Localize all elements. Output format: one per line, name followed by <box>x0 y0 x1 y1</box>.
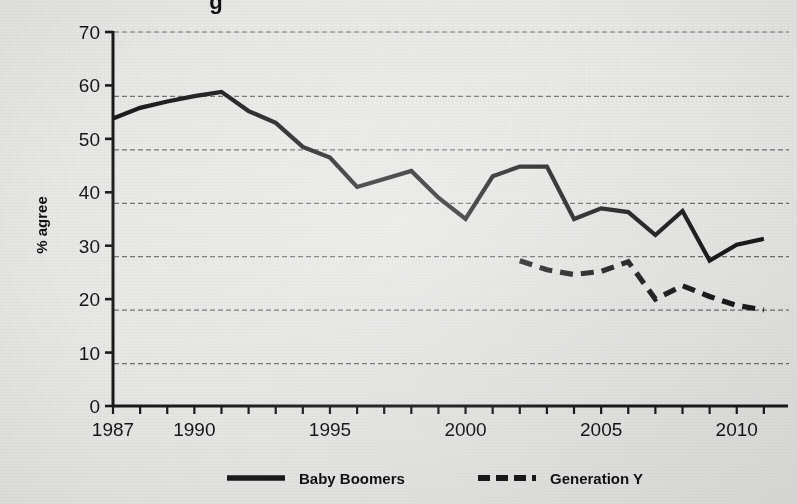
legend-label-generation-y: Generation Y <box>550 470 643 487</box>
x-tick-label: 2010 <box>716 419 758 440</box>
x-tick-label: 1987 <box>92 419 134 440</box>
x-tick-label: 1995 <box>309 419 351 440</box>
y-tick-label: 30 <box>79 236 100 257</box>
y-tick-label: 0 <box>89 396 100 417</box>
x-tick-label: 1990 <box>173 419 215 440</box>
legend-label-baby-boomers: Baby Boomers <box>299 470 405 487</box>
x-axis-tick-labels: 198719901995200020052010 <box>92 419 758 440</box>
y-tick-label: 60 <box>79 75 100 96</box>
y-tick-label: 50 <box>79 129 100 150</box>
chart-page: 010203040506070 198719901995200020052010… <box>0 0 797 504</box>
y-axis-tick-labels: 010203040506070 <box>79 22 100 417</box>
line-chart: 010203040506070 198719901995200020052010… <box>0 0 797 504</box>
y-tick-label: 40 <box>79 182 100 203</box>
x-tick-label: 2000 <box>444 419 486 440</box>
y-tick-label: 10 <box>79 343 100 364</box>
series-line-baby-boomers <box>113 92 764 261</box>
clipped-chart-title: g <box>209 0 222 14</box>
data-series <box>113 92 764 310</box>
x-tick-label: 2005 <box>580 419 622 440</box>
series-line-generation-y <box>520 261 764 310</box>
y-axis-title: % agree <box>33 196 50 254</box>
y-tick-label: 20 <box>79 289 100 310</box>
chart-legend: Baby BoomersGeneration Y <box>227 470 643 487</box>
gridlines <box>114 32 789 364</box>
y-tick-label: 70 <box>79 22 100 43</box>
